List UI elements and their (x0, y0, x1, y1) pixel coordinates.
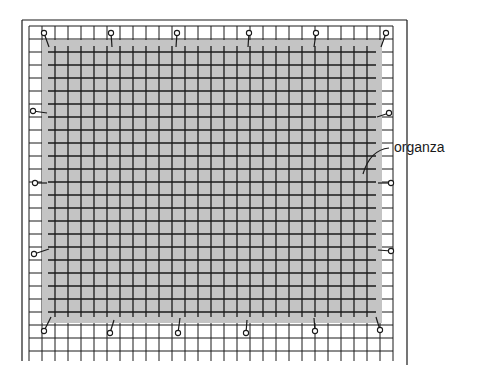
pinned-organza-diagram (0, 0, 488, 376)
organza-label: organza (394, 139, 445, 155)
